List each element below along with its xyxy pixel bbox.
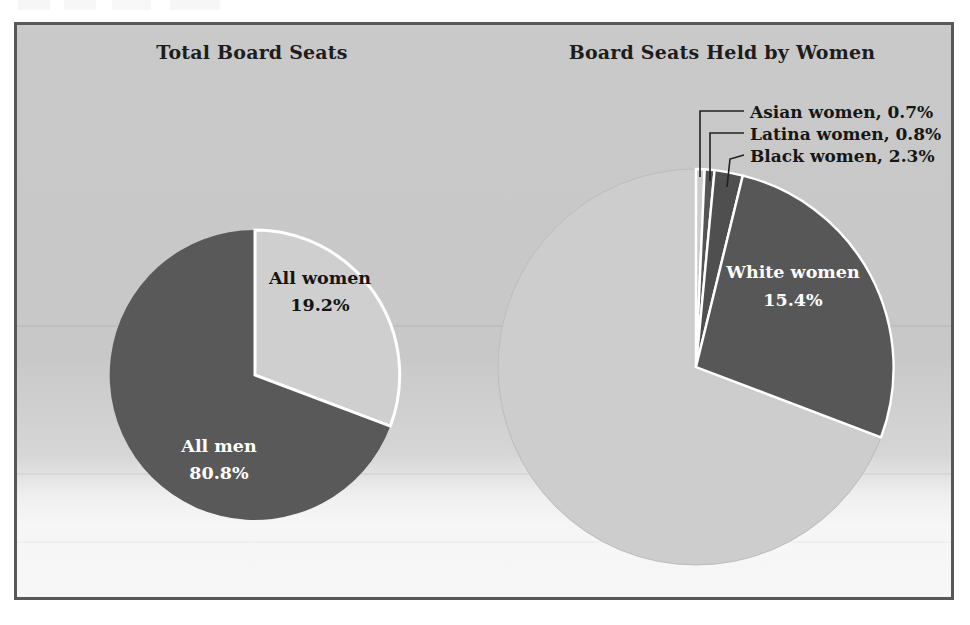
right-pie-chart: White women 15.4% Asian women, 0.7% Lati… bbox=[17, 25, 954, 600]
right-white-women-value: 15.4% bbox=[763, 290, 823, 310]
callout-black-women: Black women, 2.3% bbox=[750, 146, 935, 166]
figure-page: Total Board Seats Board Seats Held by Wo… bbox=[0, 0, 970, 625]
chart-frame: Total Board Seats Board Seats Held by Wo… bbox=[14, 22, 954, 600]
leader-line-asian bbox=[700, 111, 744, 177]
cropped-text-sliver bbox=[18, 0, 248, 10]
right-white-women-label: White women bbox=[725, 262, 860, 282]
callout-asian-women: Asian women, 0.7% bbox=[749, 102, 933, 122]
callout-latina-women: Latina women, 0.8% bbox=[750, 124, 941, 144]
